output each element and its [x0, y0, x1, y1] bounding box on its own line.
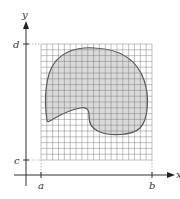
region-grid-diagram: y x d c a b: [0, 0, 180, 199]
y-axis-label: y: [21, 9, 28, 20]
b-label: b: [149, 180, 155, 191]
region-D: [46, 48, 148, 135]
x-axis-arrow-icon: [167, 172, 175, 178]
c-label: c: [14, 155, 20, 166]
y-axis-arrow-icon: [23, 21, 29, 29]
x-axis-label: x: [176, 169, 180, 180]
a-label: a: [38, 180, 44, 191]
grid-overlay: [41, 44, 152, 160]
d-label: d: [13, 39, 19, 50]
